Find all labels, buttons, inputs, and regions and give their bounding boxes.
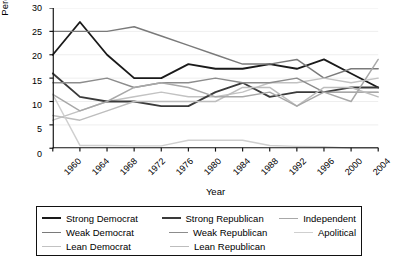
x-tick-label: 1968	[118, 156, 139, 177]
legend-label: Strong Republican	[186, 213, 264, 224]
legend-label: Lean Democrat	[66, 241, 131, 252]
legend-row: Lean DemocratLean Republican	[42, 239, 356, 253]
legend-swatch-line-icon	[42, 217, 61, 219]
plot-svg	[47, 8, 384, 154]
legend-swatch-line-icon	[42, 232, 61, 233]
y-axis-title: Percentage	[0, 0, 10, 36]
x-tick-label: 2000	[343, 156, 364, 177]
x-tick-label: 1980	[202, 156, 223, 177]
legend-item: Strong Republican	[162, 211, 280, 225]
y-tick-label: 30	[20, 4, 42, 13]
x-tick-label: 1984	[230, 156, 251, 177]
y-tick-label: 25	[20, 28, 42, 37]
legend-item: Independent	[279, 211, 356, 225]
legend-row: Strong DemocratStrong RepublicanIndepend…	[42, 211, 356, 225]
x-axis-title: Year	[47, 186, 384, 197]
legend-label: Lean Republican	[194, 241, 265, 252]
series-line	[53, 78, 378, 92]
legend-swatch-line-icon	[279, 218, 298, 219]
x-tick-label: 1992	[287, 156, 308, 177]
y-tick-label: 20	[20, 52, 42, 61]
legend-swatch-line-icon	[162, 217, 181, 219]
legend-swatch-line-icon	[170, 246, 189, 247]
series-line	[53, 27, 378, 78]
x-tick-label: 1972	[146, 156, 167, 177]
legend-swatch-line-icon	[169, 232, 188, 233]
x-tick-label: 1988	[258, 156, 279, 177]
legend-label: Independent	[303, 213, 356, 224]
legend-item: Lean Republican	[170, 239, 296, 253]
y-tick-label: 15	[20, 77, 42, 86]
y-axis-tick-labels: 051015202530	[18, 0, 42, 163]
legend-label: Weak Democrat	[66, 227, 134, 238]
y-tick-label: 5	[20, 125, 42, 134]
legend-item: Weak Democrat	[42, 225, 169, 239]
y-tick-label: 0	[20, 150, 42, 159]
series-line	[53, 94, 378, 148]
legend-item: Strong Democrat	[42, 211, 162, 225]
legend-swatch-line-icon	[42, 246, 61, 247]
series-line	[53, 59, 378, 110]
legend-label: Strong Democrat	[66, 213, 138, 224]
legend-row: Weak DemocratWeak RepublicanApolitical	[42, 225, 356, 239]
legend-swatch-line-icon	[294, 232, 313, 233]
legend-label: Weak Republican	[193, 227, 267, 238]
legend-item: Apolitical	[294, 225, 356, 239]
chart-legend: Strong DemocratStrong RepublicanIndepend…	[36, 206, 362, 256]
x-tick-label: 1960	[62, 156, 83, 177]
x-tick-label: 2004	[371, 156, 392, 177]
x-tick-label: 1964	[90, 156, 111, 177]
y-tick-label: 10	[20, 101, 42, 110]
legend-item: Weak Republican	[169, 225, 294, 239]
legend-item: Lean Democrat	[42, 239, 170, 253]
chart-figure: Percentage 051015202530 1960196419681972…	[0, 0, 397, 263]
series-line	[53, 78, 378, 120]
plot-area	[47, 8, 384, 154]
legend-label: Apolitical	[318, 227, 356, 238]
x-tick-label: 1976	[174, 156, 195, 177]
x-tick-label: 1996	[315, 156, 336, 177]
